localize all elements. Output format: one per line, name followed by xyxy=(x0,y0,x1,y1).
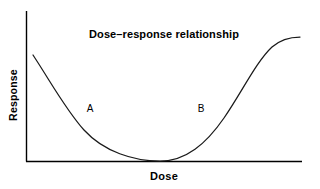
region-a-label: A xyxy=(87,104,94,114)
chart-title-text: Dose–response relationship xyxy=(89,29,239,40)
dose-response-figure: Dose–response relationship Response Dose… xyxy=(0,0,320,189)
chart-title: Dose–response relationship xyxy=(0,29,320,40)
dose-response-curve xyxy=(33,37,300,161)
region-b-label: B xyxy=(198,104,205,114)
x-axis-title: Dose xyxy=(150,171,178,182)
y-axis-title: Response xyxy=(8,69,19,121)
